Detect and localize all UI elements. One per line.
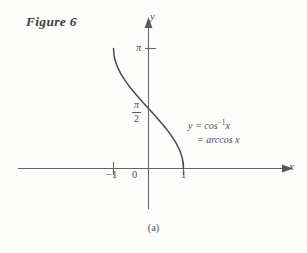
figure-panel: Figure 6 y x π π 2 −1 0 1 y = cos−1x = a… — [0, 0, 307, 253]
x-axis-label: x — [289, 161, 294, 172]
fraction-numerator: π — [134, 100, 139, 111]
curve-equation-annotation: y = cos−1x = arccos x — [188, 119, 239, 146]
panel-caption: (a) — [0, 222, 307, 233]
arccos-plot — [0, 0, 307, 253]
y-tick-label-pi-over-two: π 2 — [132, 100, 141, 124]
x-tick-label-one: 1 — [181, 170, 186, 181]
x-tick-label-neg-one: −1 — [106, 170, 117, 181]
equation-line-1-suffix: x — [226, 120, 230, 131]
y-axis-label: y — [150, 11, 155, 22]
equation-exponent: −1 — [218, 118, 226, 127]
x-tick-label-zero: 0 — [132, 170, 137, 181]
y-tick-label-pi: π — [136, 43, 141, 54]
fraction-denominator: 2 — [134, 114, 139, 125]
equation-line-1: y = cos−1x — [188, 119, 239, 133]
equation-line-1-prefix: y = cos — [188, 120, 218, 131]
equation-line-2: = arccos x — [188, 133, 239, 147]
